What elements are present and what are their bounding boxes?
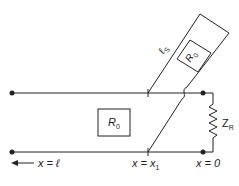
position-left-label: x = ℓ [38,158,60,169]
load-label: ZR [222,118,234,131]
load-resistor [209,93,217,152]
node-top-right [201,91,206,96]
terminal-top-left [10,91,15,96]
position-load-label: x = 0 [196,158,220,169]
main-impedance-label: R0 [108,117,120,130]
position-stub-label: x = x1 [132,158,159,171]
stub-conductor-lower [148,99,182,152]
left-arrow-icon [11,160,18,166]
stub-end [200,14,229,33]
terminal-bottom-left [10,150,15,155]
node-bottom-right [201,150,206,155]
